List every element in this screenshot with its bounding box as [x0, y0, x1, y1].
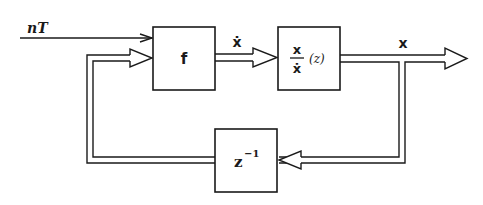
delay-base: z	[234, 153, 243, 171]
xdot-signal-label: ẋ	[232, 34, 241, 50]
delay-block: z −1	[215, 129, 277, 192]
transfer-argument: (z)	[309, 52, 325, 66]
f-to-transfer-arrow	[215, 48, 277, 67]
delay-block-box	[215, 129, 277, 192]
delay-exponent: −1	[244, 148, 259, 159]
xdot-label: ẋ	[232, 34, 241, 50]
delay-input-arrowhead	[279, 151, 301, 169]
f-out-arrowhead	[253, 48, 277, 67]
transfer-denominator: ẋ	[293, 61, 302, 76]
output-label: x	[398, 35, 407, 51]
input-label: nT	[27, 20, 49, 36]
transfer-numerator: x	[293, 42, 302, 57]
block-diagram: nT f ẋ x ẋ (z) x	[0, 0, 483, 205]
transfer-block: x ẋ (z)	[278, 27, 340, 90]
feedback-arrowhead	[130, 49, 152, 67]
f-block-label: f	[181, 50, 188, 68]
f-block: f	[153, 27, 215, 90]
output-arrowhead	[445, 48, 467, 69]
